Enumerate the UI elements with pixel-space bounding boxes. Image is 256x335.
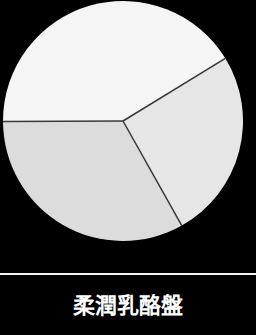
chart-caption: 柔潤乳酪盤 xyxy=(0,286,256,326)
pie-chart-svg xyxy=(0,0,256,250)
pie-chart xyxy=(0,0,256,250)
divider-line xyxy=(0,273,256,275)
